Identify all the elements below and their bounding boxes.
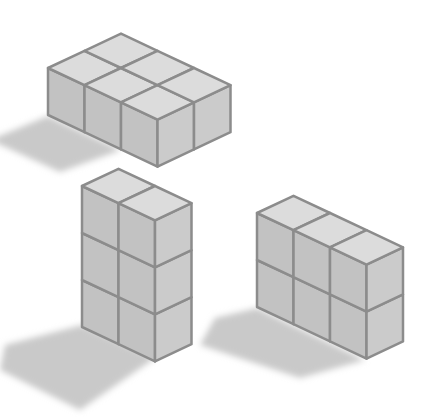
cube-figure [0,0,428,417]
solids-layer [48,34,403,362]
tall-tower [82,169,192,362]
cube-diagram [0,0,428,417]
